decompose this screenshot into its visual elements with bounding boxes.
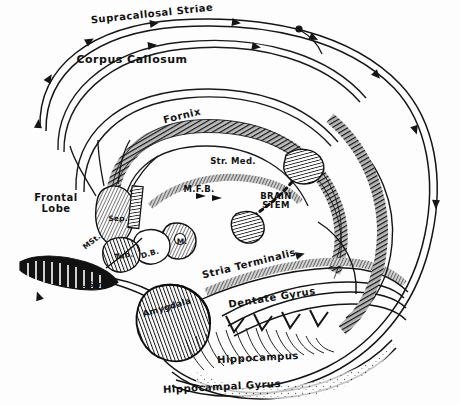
- label-corpus-callosum: Corpus Callosum: [76, 54, 187, 66]
- label-str-med: Str. Med.: [210, 157, 256, 166]
- dentate-arrowheads: [226, 310, 328, 332]
- label-mfb: M.F.B.: [184, 185, 215, 194]
- label-septum: Sep.: [108, 215, 128, 223]
- limbic-system-diagram: Supracallosal StriaeCorpus CallosumForni…: [0, 0, 460, 405]
- label-mammillary-body: M.: [177, 238, 188, 246]
- label-lateral-striae: L Str.: [80, 281, 103, 289]
- label-brain-stem: BRAIN STEM: [260, 192, 291, 211]
- amygdala-nucleus: [136, 285, 210, 361]
- interpeduncular-nucleus: [231, 211, 264, 243]
- habenular-nucleus: [284, 149, 324, 184]
- label-frontal-lobe: Frontal Lobe: [34, 192, 78, 214]
